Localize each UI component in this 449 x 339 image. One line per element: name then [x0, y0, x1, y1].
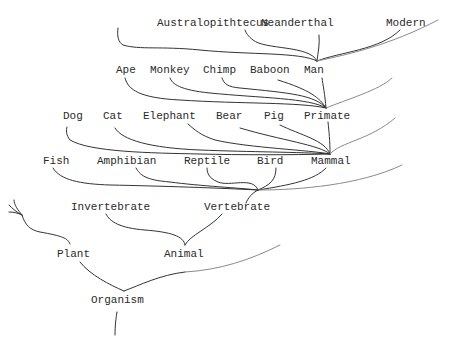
- node-label-animal: Animal: [164, 248, 204, 260]
- branch-animal-to-invertebrate: [106, 214, 185, 245]
- branch-primate-to-unlabeled-right: [326, 78, 392, 108]
- tree-of-life-diagram: AustralopithtecusNeanderthalModernApeMon…: [0, 0, 449, 339]
- node-label-fish: Fish: [43, 155, 69, 167]
- branch-vertebrate-to-bird: [258, 168, 276, 190]
- branch-plant-to-unlabeled-plant-branch-4: [9, 205, 22, 215]
- node-label-chimp: Chimp: [203, 64, 236, 76]
- node-labels: AustralopithtecusNeanderthalModernApeMon…: [43, 17, 426, 306]
- node-label-neanderthal: Neanderthal: [261, 17, 334, 29]
- branch-organism-to-plant: [80, 262, 124, 291]
- branch-man-to-neanderthal: [317, 35, 319, 61]
- branch-mammal-to-elephant: [188, 124, 330, 154]
- node-label-dog: Dog: [63, 110, 83, 122]
- node-label-mammal: Mammal: [311, 155, 351, 167]
- branch-plant-to-unlabeled-plant-branch: [22, 215, 70, 244]
- node-label-man: Man: [304, 64, 324, 76]
- node-label-primate: Primate: [304, 110, 350, 122]
- branch-man-to-modern: [317, 30, 400, 61]
- branch-primate-to-ape: [125, 78, 326, 108]
- branch-mammal-to-primate: [328, 122, 330, 154]
- branch-man-to-unlabeled-upper-left: [118, 28, 317, 61]
- branch-vertebrate-to-fish: [53, 168, 258, 190]
- node-label-elephant: Elephant: [143, 110, 196, 122]
- node-label-baboon: Baboon: [250, 64, 290, 76]
- node-label-pig: Pig: [264, 110, 284, 122]
- node-label-cat: Cat: [103, 110, 123, 122]
- node-label-organism: Organism: [91, 294, 144, 306]
- node-label-australopithecus: Australopithtecus: [157, 17, 269, 29]
- branch-organism-root-to-organism: [115, 312, 117, 335]
- node-label-reptile: Reptile: [184, 155, 230, 167]
- branch-mammal-to-unlabeled-right: [330, 118, 395, 154]
- node-label-modern: Modern: [386, 17, 426, 29]
- node-label-bird: Bird: [257, 155, 283, 167]
- node-label-amphibian: Amphibian: [97, 155, 156, 167]
- node-label-monkey: Monkey: [150, 64, 190, 76]
- branch-vertebrate-to-amphibian: [136, 168, 258, 190]
- branch-animal-to-vertebrate: [185, 214, 222, 245]
- branch-man-to-australopithecus: [245, 30, 317, 61]
- node-label-plant: Plant: [57, 248, 90, 260]
- node-label-invertebrate: Invertebrate: [71, 201, 150, 213]
- node-label-vertebrate: Vertebrate: [204, 201, 270, 213]
- node-label-bear: Bear: [216, 110, 242, 122]
- node-label-ape: Ape: [116, 64, 136, 76]
- branch-organism-to-animal: [124, 272, 185, 291]
- branch-primate-to-monkey: [170, 78, 326, 108]
